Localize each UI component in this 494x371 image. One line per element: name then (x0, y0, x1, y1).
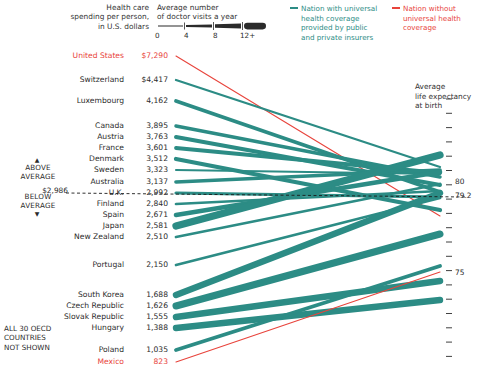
slope-lines-plot (0, 0, 494, 371)
axis-tick-label: 79.2 (455, 192, 471, 200)
slopegraph-figure: Health care spending per person, in U.S.… (0, 0, 494, 371)
axis-tick-label: 75 (455, 269, 464, 277)
slope-line (176, 80, 440, 167)
slope-line (176, 272, 440, 362)
axis-tick-label: 80 (455, 178, 464, 186)
